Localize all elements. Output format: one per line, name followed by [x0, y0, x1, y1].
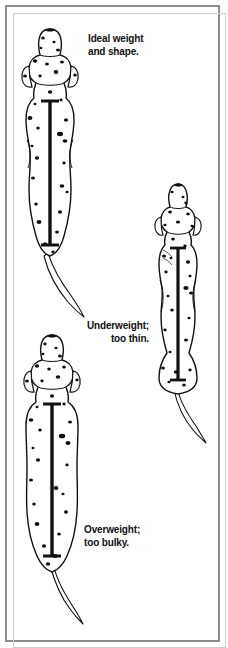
dog-figure-ideal: [22, 29, 84, 318]
caption-underweight: Underweight; too thin.: [60, 320, 149, 345]
dog-figure-underweight: [155, 184, 206, 444]
dog-tail-ideal: [44, 253, 84, 317]
dog-tail-underweight: [174, 387, 206, 443]
caption-ideal-weight: Ideal weight and shape.: [88, 33, 174, 58]
dog-figure-overweight: [24, 335, 83, 625]
caption-overweight: Overweight; too bulky.: [84, 524, 174, 549]
